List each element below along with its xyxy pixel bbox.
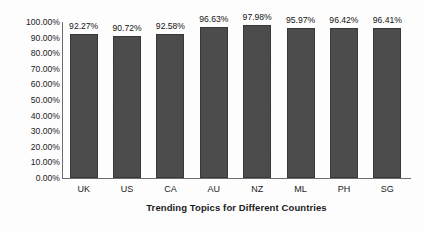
y-tick-label: 50.00%	[14, 95, 60, 105]
y-tick-label: 10.00%	[14, 157, 60, 167]
y-tick-label: 30.00%	[14, 126, 60, 136]
y-tick-label: 20.00%	[14, 142, 60, 152]
y-tick-label: 40.00%	[14, 111, 60, 121]
bar-chart-figure: Cumulative Percentage 0.00%10.00%20.00%3…	[0, 0, 423, 232]
x-tick-label: ML	[281, 184, 321, 194]
y-tick-label: 80.00%	[14, 48, 60, 58]
x-tick-label: US	[107, 184, 147, 194]
x-tick-label: CA	[150, 184, 190, 194]
x-tick-label: NZ	[237, 184, 277, 194]
y-tick-label: 60.00%	[14, 79, 60, 89]
x-tick-label: SG	[367, 184, 407, 194]
y-tick-label: 70.00%	[14, 64, 60, 74]
y-tick-label: 100.00%	[14, 17, 60, 27]
y-tick-label: 0.00%	[14, 173, 60, 183]
x-tick-label: PH	[324, 184, 364, 194]
y-axis-tick-labels: 0.00%10.00%20.00%30.00%40.00%50.00%60.00…	[8, 0, 60, 232]
x-axis-category-labels: UKUSCAAUNZMLPHSG	[62, 0, 409, 232]
x-axis-title: Trending Topics for Different Countries	[62, 202, 411, 213]
x-tick-label: AU	[194, 184, 234, 194]
bar-value-label: 96.41%	[359, 15, 415, 25]
x-tick-label: UK	[64, 184, 104, 194]
y-tick-label: 90.00%	[14, 33, 60, 43]
